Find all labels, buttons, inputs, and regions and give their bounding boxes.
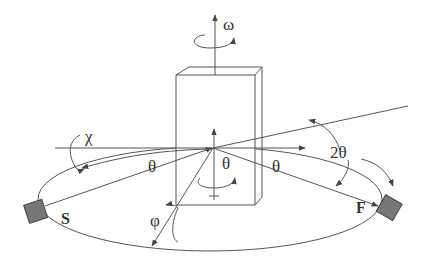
theta-left-label: θ <box>148 158 156 175</box>
omega-label: ω <box>223 16 234 33</box>
source-label: S <box>61 211 70 227</box>
theta-center-label: θ <box>222 155 230 172</box>
sample-block <box>176 67 262 205</box>
diffractometer-diagram <box>0 0 423 271</box>
source-detector <box>24 199 48 223</box>
focus-detector <box>376 195 402 221</box>
phi-label: φ <box>150 212 160 229</box>
phi-rotation-icon <box>166 205 178 242</box>
theta-right-label: θ <box>272 158 280 175</box>
focus-label: F <box>356 200 366 216</box>
two-theta-label: 2θ <box>330 144 347 161</box>
f-rotation-arrow <box>361 159 393 186</box>
chi-label: χ <box>85 128 93 145</box>
omega-rotation-icon <box>194 35 234 48</box>
